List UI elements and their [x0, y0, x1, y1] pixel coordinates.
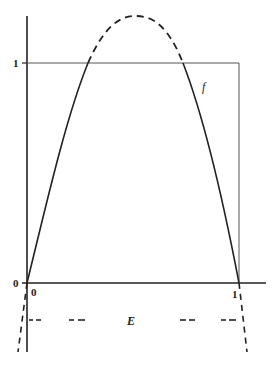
curve-f-dashed-right	[239, 283, 247, 352]
y-tick-label-0: 0	[13, 277, 19, 289]
x-tick-label-1: 1	[232, 288, 238, 300]
set-label-E: E	[126, 314, 135, 328]
x-tick-label-0: 0	[31, 286, 37, 298]
curve-label-f: f	[202, 80, 207, 94]
figure-canvas: 1 0 0 1 f E	[0, 0, 277, 365]
curve-f-dashed-left	[18, 283, 27, 352]
curve-f-dashed-top	[88, 16, 183, 63]
curve-f-solid-right	[183, 63, 239, 283]
y-tick-label-1: 1	[13, 57, 19, 69]
curve-f-solid	[27, 63, 88, 283]
